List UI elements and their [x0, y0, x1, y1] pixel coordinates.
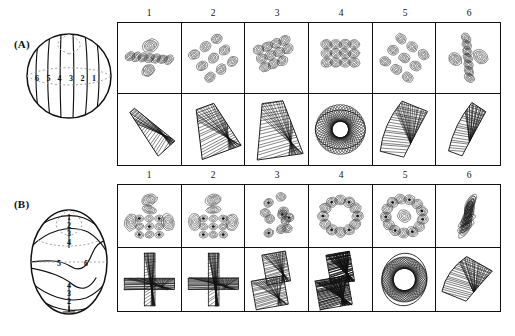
panel-a-grid: [117, 22, 501, 166]
col-head-a-4: 4: [309, 8, 373, 18]
col-head-b-1: 1: [117, 170, 181, 180]
col-head-b-2: 2: [181, 170, 245, 180]
panel-a-quantum-contours-cell-6: [436, 23, 500, 94]
panel-a-quantum-contours-cell-2: [182, 23, 246, 94]
panel-b-quantum-contours-cell-5: [373, 185, 437, 248]
panel-a-classical-trajectories-cell-6: [436, 94, 500, 165]
panel-b-quantum-contours-cell-4: [309, 185, 373, 248]
panel-b-grid: [117, 184, 501, 312]
svg-text:4: 4: [67, 238, 71, 247]
panel-b-classical-trajectories-cell-3: [245, 248, 309, 311]
panel-a-classical-trajectories-cell-3: [245, 94, 309, 165]
figure-root: (A) 6 5 4: [0, 0, 515, 336]
col-head-a-3: 3: [245, 8, 309, 18]
col-head-a-6: 6: [437, 8, 501, 18]
panel-b-classical-trajectories-cell-2: [182, 248, 246, 311]
panel-b-quantum-contours-cell-1: [118, 185, 182, 248]
col-head-a-1: 1: [117, 8, 181, 18]
panel-b-classical-trajectories-cell-6: [436, 248, 500, 311]
panel-a-quantum-contours-cell-3: [245, 23, 309, 94]
panel-b-classical-trajectories-cell-4: [309, 248, 373, 311]
panel-b-classical-trajectories-cell-1: [118, 248, 182, 311]
column-headers-b: 1 2 3 4 5 6: [117, 170, 501, 180]
panel-a-quantum-contours-cell-4: [309, 23, 373, 94]
svg-text:3: 3: [69, 74, 73, 83]
panel-b-quantum-contours-cell-6: [436, 185, 500, 248]
panel-a-classical-trajectories-cell-2: [182, 94, 246, 165]
svg-text:2: 2: [81, 74, 85, 83]
col-head-b-4: 4: [309, 170, 373, 180]
svg-text:5: 5: [47, 74, 51, 83]
svg-text:3: 3: [67, 229, 71, 238]
col-head-b-3: 3: [245, 170, 309, 180]
panel-b-quantum-contours-cell-3: [245, 185, 309, 248]
col-head-a-2: 2: [181, 8, 245, 18]
svg-text:1: 1: [92, 74, 96, 83]
panel-a-classical-trajectories-cell-1: [118, 94, 182, 165]
panel-a-classical-trajectories-cell-5: [373, 94, 437, 165]
svg-text:5: 5: [57, 259, 61, 268]
panel-a-classical-trajectories-cell-4: [309, 94, 373, 165]
panel-a-quantum-contours-cell-5: [373, 23, 437, 94]
panel-b-classical-trajectories-cell-5: [373, 248, 437, 311]
panel-a-quantum-contours-cell-1: [118, 23, 182, 94]
sphere-diagram-a: 6 5 4 3 2 1: [24, 28, 114, 124]
sphere-diagram-b: 1 2 3 4 5 6 4 3 2 1: [26, 196, 112, 328]
col-head-b-5: 5: [373, 170, 437, 180]
column-headers-a: 1 2 3 4 5 6: [117, 8, 501, 18]
panel-b-quantum-contours-cell-2: [182, 185, 246, 248]
svg-text:6: 6: [84, 259, 88, 268]
svg-text:1: 1: [67, 305, 71, 314]
col-head-a-5: 5: [373, 8, 437, 18]
svg-text:6: 6: [35, 74, 39, 83]
col-head-b-6: 6: [437, 170, 501, 180]
svg-text:4: 4: [58, 74, 62, 83]
